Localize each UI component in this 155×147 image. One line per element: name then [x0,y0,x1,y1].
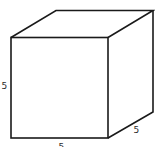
right-face [108,11,153,139]
depth-label: 5 [134,125,140,135]
height-label: 5 [2,81,8,91]
top-face [11,11,153,38]
cube-edges [11,11,153,139]
width-label: 5 [59,142,65,147]
front-face [11,38,108,139]
cube-diagram: 5 5 5 [0,0,155,147]
